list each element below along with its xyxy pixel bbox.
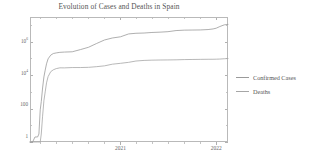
x-tick-mark (72, 142, 73, 144)
x-tick-label: 2022 (211, 146, 222, 151)
line-confirmed-cases (30, 24, 228, 142)
legend-label: Confirmed Cases (253, 74, 296, 81)
series-lines (30, 17, 228, 142)
x-tick-label: 2021 (115, 146, 126, 151)
y-axis-tick-labels: 106 104 100 1 (0, 0, 28, 164)
y-tick-label: 100 (20, 102, 28, 107)
x-tick-mark (136, 142, 137, 144)
plot-area (30, 17, 228, 142)
x-tick-mark (184, 142, 185, 144)
y-tick-label: 1 (25, 134, 28, 139)
chart-figure: Evolution of Cases and Deaths in Spain 1… (0, 0, 324, 164)
legend-item-deaths[interactable]: Deaths (236, 84, 322, 98)
x-tick-mark (168, 142, 169, 144)
y-tick-mark (225, 142, 228, 143)
x-tick-mark (56, 142, 57, 144)
line-deaths (30, 59, 228, 142)
legend-swatch-icon (236, 77, 249, 78)
chart-legend: Confirmed Cases Deaths (236, 70, 322, 98)
legend-swatch-icon (236, 91, 249, 92)
x-tick-mark (152, 142, 153, 144)
x-tick-mark (104, 142, 105, 144)
legend-item-confirmed-cases[interactable]: Confirmed Cases (236, 70, 322, 84)
legend-label: Deaths (253, 88, 270, 95)
x-tick-mark (88, 142, 89, 144)
chart-title: Evolution of Cases and Deaths in Spain (0, 2, 238, 11)
x-tick-mark (200, 142, 201, 144)
y-tick-label: 106 (21, 39, 28, 44)
y-tick-label: 104 (21, 71, 28, 76)
